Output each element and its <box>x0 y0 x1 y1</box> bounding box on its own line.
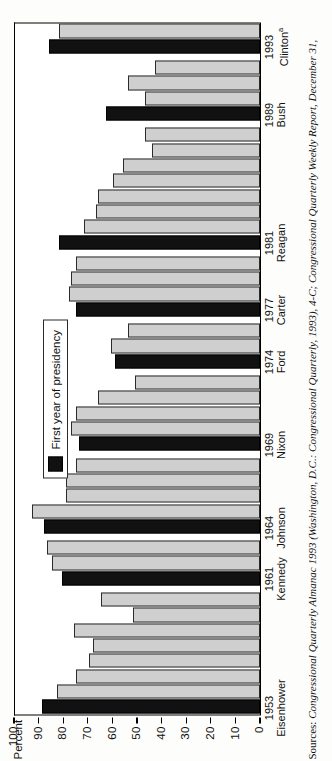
bar-column <box>15 173 260 188</box>
bar-column <box>15 488 260 503</box>
x-group-label-carter: 1977Carter <box>263 294 287 325</box>
bar-column <box>15 157 260 172</box>
y-tick-label: 30 <box>180 726 192 739</box>
x-group-year: 1989 <box>263 102 275 127</box>
x-group-name: Carter <box>275 294 287 325</box>
y-tick-mark <box>186 717 187 723</box>
bar-first-year <box>44 519 260 533</box>
rotated-figure: Percent 1009080706050403020100 First yea… <box>0 0 332 761</box>
x-group-label-kennedy: 1961Kennedy <box>263 557 287 600</box>
bar <box>89 653 261 667</box>
y-tick-label: 60 <box>107 726 119 739</box>
y-tick-label: 70 <box>82 726 94 739</box>
bar-column <box>15 105 260 120</box>
bar-group-gap <box>15 586 260 592</box>
y-tick-mark <box>38 717 39 723</box>
bar <box>84 219 260 233</box>
bar-column <box>15 188 260 203</box>
y-tick-label: 50 <box>131 726 143 739</box>
bar <box>76 669 260 683</box>
y-tick-mark <box>161 717 162 723</box>
x-group-name: Eisenhower <box>275 679 287 736</box>
bar <box>128 75 260 89</box>
bar-group-gap <box>15 249 260 255</box>
bar <box>66 488 260 502</box>
bar-first-year <box>79 436 260 450</box>
bar-column <box>15 271 260 286</box>
x-group-name: Nixon <box>275 430 287 458</box>
legend-label-first-year: First year of presidency <box>50 329 62 449</box>
x-group-year: 1993 <box>263 27 275 65</box>
bar-column <box>15 555 260 570</box>
bar <box>145 127 260 141</box>
source-note: Sources: Congressional Quarterly Almanac… <box>306 2 319 759</box>
source-lead: Sources: <box>306 721 318 759</box>
x-axis-line <box>260 22 261 715</box>
bar-column <box>15 234 260 249</box>
bar-group-gap <box>15 121 260 127</box>
bar-first-year <box>62 571 260 585</box>
bar-first-year <box>106 106 260 120</box>
x-group-name: Reagan <box>275 223 287 262</box>
bar <box>52 555 260 569</box>
x-group-label-clinton: 1993Clintona <box>263 27 290 65</box>
bar-column <box>15 699 260 714</box>
legend-swatch-first-year-icon <box>48 456 63 471</box>
bar <box>76 458 260 472</box>
x-group-superscript: a <box>276 27 285 31</box>
bar-column <box>15 622 260 637</box>
x-group-label-eisenhower: 1953Eisenhower <box>263 679 287 736</box>
bar-column <box>15 301 260 316</box>
x-group-name: Clintona <box>275 27 290 65</box>
figure-inner: Percent 1009080706050403020100 First yea… <box>0 0 332 761</box>
y-tick-mark <box>210 717 211 723</box>
source-text: Congressional Quarterly Almanac 1993 (Wa… <box>306 39 318 721</box>
bar <box>101 592 260 606</box>
x-group-year: 1964 <box>263 507 275 549</box>
bar-first-year <box>76 302 260 316</box>
bar-column <box>15 653 260 668</box>
y-tick-mark <box>136 717 137 723</box>
bar-column <box>15 60 260 75</box>
bar <box>128 323 260 337</box>
bar-column <box>15 75 260 90</box>
x-group-year: 1969 <box>263 430 275 458</box>
bar-column <box>15 203 260 218</box>
bar <box>76 406 260 420</box>
bar <box>155 60 260 74</box>
bar-column <box>15 637 260 652</box>
x-group-year: 1961 <box>263 557 275 600</box>
x-group-label-ford: 1974Ford <box>263 349 287 373</box>
bar <box>123 158 260 172</box>
bar <box>113 173 260 187</box>
bar <box>93 638 260 652</box>
y-axis: Percent 1009080706050403020100 <box>14 717 260 761</box>
bar <box>57 684 260 698</box>
bar-first-year <box>49 39 260 53</box>
bar-column <box>15 570 260 585</box>
bar <box>69 286 260 300</box>
bar <box>47 540 260 554</box>
bar-column <box>15 683 260 698</box>
bar <box>133 607 260 621</box>
bar-column <box>15 668 260 683</box>
y-tick-label: 90 <box>33 726 45 739</box>
bar-column <box>15 38 260 53</box>
bar-column <box>15 503 260 518</box>
bar <box>152 143 260 157</box>
bar-column <box>15 286 260 301</box>
bar <box>71 421 260 435</box>
x-group-year: 1953 <box>263 679 275 736</box>
bar <box>145 91 260 105</box>
y-tick-label: 80 <box>57 726 69 739</box>
x-group-name: Kennedy <box>275 557 287 600</box>
bar-column <box>15 592 260 607</box>
bar <box>59 23 260 37</box>
y-tick-label: 40 <box>156 726 168 739</box>
bar <box>135 375 260 389</box>
bar <box>111 338 260 352</box>
y-tick-mark <box>13 717 14 723</box>
bar-column <box>15 90 260 105</box>
bar-column <box>15 518 260 533</box>
y-tick-mark <box>259 717 260 723</box>
